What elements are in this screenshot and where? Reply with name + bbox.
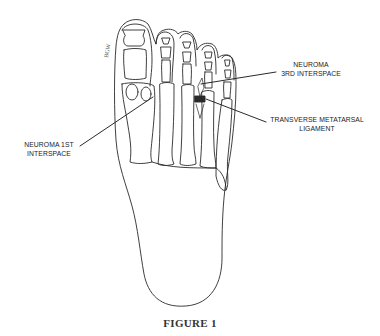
signature: BGW <box>103 43 111 58</box>
label-transverse-metatarsal-ligament: TRANSVERSE METATARSAL LIGAMENT <box>270 115 364 133</box>
label-neuroma-3rd-interspace: NEUROMA 3RD INTERSPACE <box>281 60 341 78</box>
label-neuroma-3rd-line2: 3RD INTERSPACE <box>281 69 341 78</box>
label-neuroma-1st-line1: NEUROMA 1ST <box>21 140 77 149</box>
figure-caption: FIGURE 1 <box>0 317 380 329</box>
leader-neuroma-1st <box>80 97 153 146</box>
leader-transverse-ligament <box>206 99 266 122</box>
foot-illustration: BGW <box>0 0 380 336</box>
label-ligament-line1: TRANSVERSE METATARSAL <box>270 115 364 124</box>
label-ligament-line2: LIGAMENT <box>270 124 364 133</box>
figure: BGW NEUROMA 3RD INTERSPACE TRANSVERSE ME… <box>0 0 380 336</box>
label-neuroma-1st-interspace: NEUROMA 1ST INTERSPACE <box>21 140 77 158</box>
label-neuroma-3rd-line1: NEUROMA <box>281 60 341 69</box>
label-neuroma-1st-line2: INTERSPACE <box>21 149 77 158</box>
